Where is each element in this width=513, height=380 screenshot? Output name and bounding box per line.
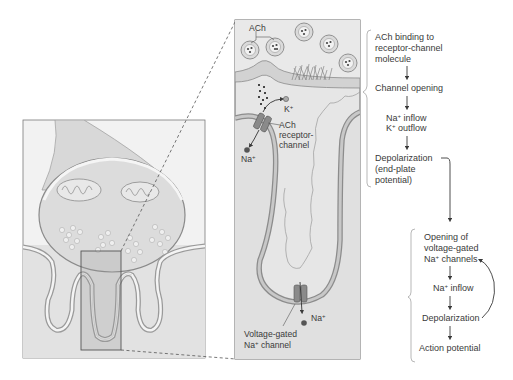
ach-receptor-label-3: channel bbox=[279, 140, 309, 150]
flow-step-4-line-3: potential) bbox=[375, 175, 412, 185]
feedback-loop-arrow-icon bbox=[480, 260, 495, 318]
flow-b-step-1-line-1: Opening of bbox=[424, 232, 469, 242]
ach-receptor-label-1: ACh bbox=[279, 120, 296, 130]
flow-step-1-line-1: ACh binding to bbox=[375, 32, 434, 42]
mitochondrion-icon bbox=[57, 179, 101, 201]
connector-arrow-icon bbox=[441, 158, 450, 220]
zoom-region-box bbox=[81, 251, 121, 350]
voltage-gated-label-2: Na+ channel bbox=[244, 340, 291, 350]
flow-step-1-line-2: receptor-channel bbox=[375, 43, 443, 53]
flow-step-3-line-1: Na+ inflow bbox=[386, 113, 427, 123]
flow-step-2-line-1: Channel opening bbox=[375, 83, 443, 93]
flow-step-4-line-1: Depolarization bbox=[375, 153, 433, 163]
na-ion-icon bbox=[244, 147, 250, 153]
flow-b-step-1-line-3: Na+ channels bbox=[424, 254, 478, 264]
voltage-gated-label-1: Voltage-gated bbox=[244, 329, 297, 339]
right-panel-detail: ACh K+ N bbox=[235, 20, 360, 359]
flow-chart-action-potential: Opening of voltage-gated Na+ channels Na… bbox=[408, 229, 495, 362]
ach-label: ACh bbox=[249, 23, 266, 33]
flow-b-step-4-line-1: Action potential bbox=[419, 343, 481, 353]
k-ion-icon bbox=[283, 96, 288, 101]
flow-b-step-2-line-1: Na+ inflow bbox=[433, 283, 474, 293]
na-ion-icon bbox=[301, 320, 307, 326]
mitochondrion-icon bbox=[121, 182, 159, 202]
diagram-canvas: ACh K+ N bbox=[0, 0, 513, 380]
flow-step-4-line-2: (end-plate bbox=[375, 164, 416, 174]
flow-b-step-3-line-1: Depolarization bbox=[422, 313, 480, 323]
flow-step-1-line-3: molecule bbox=[375, 54, 411, 64]
bracket-bottom bbox=[408, 229, 415, 362]
ach-receptor-label-2: receptor- bbox=[279, 130, 314, 140]
bracket-top bbox=[363, 30, 371, 187]
left-panel-overview bbox=[23, 120, 205, 358]
flow-chart-endplate: ACh binding to receptor-channel molecule… bbox=[363, 30, 450, 220]
flow-b-step-1-line-2: voltage-gated bbox=[424, 243, 479, 253]
flow-step-3-line-2: K+ outflow bbox=[386, 123, 427, 133]
